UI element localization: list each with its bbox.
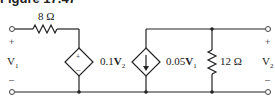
arrow-down-icon [143,66,149,71]
isource-label: 0.05V1 [166,55,197,70]
output-terminal-top [266,27,271,32]
circuit-diagram: 8 Ω + V1 – + – 0.1V2 0.05V1 12 Ω + V2 – [0,0,275,102]
input-voltage-label: V1 [7,55,19,70]
resistor-12ohm-label: 12 Ω [220,55,242,67]
input-terminal-top [10,27,15,32]
input-terminal-bottom [10,90,15,95]
output-terminal-bottom [266,90,271,95]
output-voltage-label: V2 [262,55,274,70]
vsource-plus-sign: + [76,53,80,60]
vsource-minus-sign: – [76,65,81,74]
output-minus-sign: – [265,75,270,85]
input-plus-sign: + [9,37,14,47]
resistor-12ohm-icon [208,50,216,74]
output-plus-sign: + [265,37,270,47]
resistor-8ohm-label: 8 Ω [38,10,54,22]
vsource-label: 0.1V2 [100,55,126,70]
input-minus-sign: – [9,75,14,85]
resistor-8ohm-icon [33,25,57,33]
